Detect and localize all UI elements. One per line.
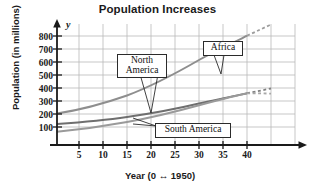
x-axis-arrow [299,141,308,149]
series-dashed-north-america [247,89,271,94]
plot-area [0,0,315,190]
callout-north-america-line2: America [121,66,163,76]
callout-south-america: South America [155,123,231,138]
series-dashed-africa [247,24,271,35]
horizontal-gridlines [57,36,295,127]
callout-north-america: North America [117,54,167,78]
y-axis-arrow [53,19,61,28]
chart-page: Population Increases Population (in mill… [0,0,315,190]
callout-africa: Africa [203,41,243,56]
leader-line-africa [214,55,224,74]
leader-line-north-america [140,74,158,113]
